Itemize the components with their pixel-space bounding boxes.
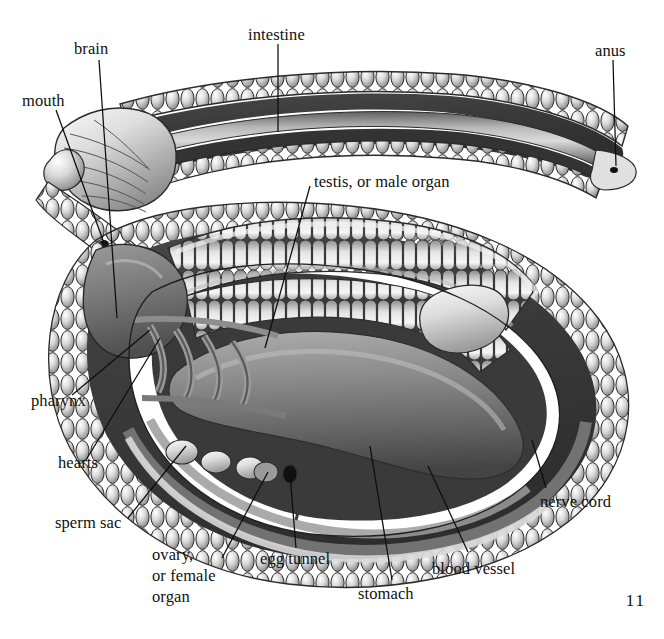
label-egg-tunnel: egg tunnel xyxy=(260,548,330,569)
label-nerve-cord: nerve cord xyxy=(540,491,611,512)
label-ovary: ovary, or female organ xyxy=(152,544,216,607)
ovary-organ xyxy=(254,462,278,482)
label-mouth: mouth xyxy=(22,90,65,111)
label-blood-vessel: blood vessel xyxy=(432,558,515,579)
lower-body-loop xyxy=(49,202,629,587)
label-hearts: hearts xyxy=(58,452,98,473)
earthworm-anatomy-illustration xyxy=(0,0,664,639)
anus-opening xyxy=(610,167,618,173)
page-number: 11 xyxy=(626,591,646,611)
figure-page: intestine anus brain mouth testis, or ma… xyxy=(0,0,664,639)
label-anus: anus xyxy=(595,40,626,61)
label-intestine: intestine xyxy=(248,24,305,45)
label-testis: testis, or male organ xyxy=(314,171,450,192)
label-sperm-sac: sperm sac xyxy=(55,512,121,533)
label-stomach: stomach xyxy=(358,583,414,604)
label-brain: brain xyxy=(74,38,108,59)
label-pharynx: pharynx xyxy=(31,390,86,411)
